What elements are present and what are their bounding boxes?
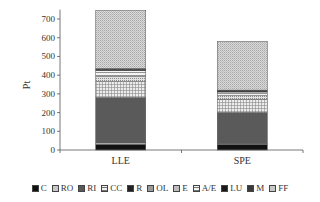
legend-label: CC [110, 183, 122, 193]
bar-segment-cc [96, 82, 146, 98]
legend-swatch [147, 185, 154, 192]
y-tick-label: 600 [42, 33, 56, 43]
y-axis: 0100200300400500600700 [42, 10, 61, 155]
bar-segment-ri [96, 98, 146, 143]
y-tick-label: 500 [42, 51, 56, 61]
bar-segment-c [96, 144, 146, 150]
bar-segment-a-e [96, 70, 146, 76]
y-tick-label: 0 [51, 145, 56, 155]
legend-item: RO [52, 183, 74, 193]
legend-swatch [221, 185, 228, 192]
legend-label: M [256, 183, 264, 193]
bar-segment-cc [217, 99, 267, 112]
legend-item: OL [147, 183, 168, 193]
bar-segment-ff [217, 41, 267, 90]
legend-label: FF [278, 183, 288, 193]
bar-segment-ri [217, 113, 267, 144]
legend-label: RO [61, 183, 74, 193]
x-axis: LLESPE [60, 150, 303, 166]
legend-label: E [182, 183, 188, 193]
legend-item: LU [221, 183, 242, 193]
bars [96, 11, 268, 150]
bar-segment-e [96, 77, 146, 82]
legend-item: E [173, 183, 188, 193]
y-axis-title: Pt [21, 81, 32, 90]
legend-swatch [173, 185, 180, 192]
legend-label: C [41, 183, 47, 193]
legend-label: OL [156, 183, 168, 193]
legend-item: A/E [193, 183, 217, 193]
legend-item: CC [101, 183, 122, 193]
y-tick-label: 200 [42, 108, 56, 118]
legend-swatch [193, 185, 200, 192]
legend-swatch [101, 185, 108, 192]
legend: CRORICCROLEA/ELUMFF [0, 181, 320, 195]
legend-item: C [32, 183, 47, 193]
legend-label: A/E [202, 183, 217, 193]
y-tick-label: 400 [42, 70, 56, 80]
legend-swatch [78, 185, 85, 192]
bar-segment-c [217, 144, 267, 150]
y-tick-label: 300 [42, 89, 56, 99]
bar-stack-lle [96, 11, 146, 150]
legend-item: FF [269, 183, 288, 193]
legend-label: LU [230, 183, 242, 193]
legend-item: R [127, 183, 142, 193]
bar-segment-ff [96, 11, 146, 69]
x-tick-label: LLE [112, 155, 130, 166]
bar-segment-a-e [217, 92, 267, 96]
legend-swatch [52, 185, 59, 192]
legend-item: RI [78, 183, 96, 193]
legend-swatch [127, 185, 134, 192]
legend-swatch [32, 185, 39, 192]
y-tick-label: 700 [42, 14, 56, 24]
bar-segment-e [217, 96, 267, 100]
legend-label: RI [87, 183, 96, 193]
legend-swatch [269, 185, 276, 192]
legend-item: M [247, 183, 264, 193]
bar-stack-spe [217, 41, 267, 150]
y-tick-label: 100 [42, 126, 56, 136]
x-tick-label: SPE [234, 155, 251, 166]
legend-swatch [247, 185, 254, 192]
legend-label: R [136, 183, 142, 193]
stacked-bar-chart: 0100200300400500600700 LLESPE Pt [0, 0, 320, 170]
